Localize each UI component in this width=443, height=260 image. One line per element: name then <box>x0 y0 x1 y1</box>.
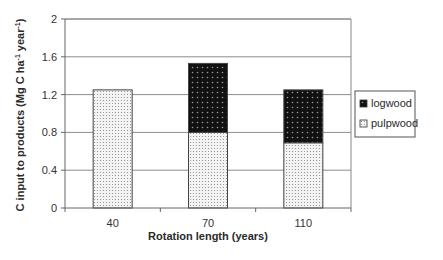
bar-logwood-70 <box>189 63 228 132</box>
y-tick-label: 0.4 <box>42 164 57 176</box>
y-tick-label: 1.6 <box>42 51 57 63</box>
bars <box>93 63 323 208</box>
bar-logwood-110 <box>284 90 323 143</box>
x-tick-label: 40 <box>107 217 119 229</box>
legend-swatch-pulpwood <box>360 120 367 127</box>
legend-label-pulpwood: pulpwood <box>371 117 418 129</box>
stacked-bar-chart: 00.40.81.21.62 4070110 Rotation length (… <box>0 0 443 260</box>
bar-pulpwood-70 <box>189 132 228 208</box>
y-axis-ticks: 00.40.81.21.62 <box>42 13 65 214</box>
bar-pulpwood-40 <box>93 90 132 208</box>
bar-pulpwood-110 <box>284 143 323 208</box>
y-axis-title: C input to products (Mg C ha-1 year-1) <box>14 18 26 211</box>
x-axis-ticks: 4070110 <box>65 208 351 229</box>
x-tick-label: 110 <box>295 217 313 229</box>
x-tick-label: 70 <box>202 217 214 229</box>
y-tick-label: 0.8 <box>42 126 57 138</box>
y-tick-label: 2 <box>51 13 57 25</box>
y-tick-label: 1.2 <box>42 89 57 101</box>
legend-label-logwood: logwood <box>371 97 412 109</box>
legend: logwood pulpwood <box>355 91 418 137</box>
x-axis-title: Rotation length (years) <box>148 230 268 242</box>
legend-swatch-logwood <box>360 100 367 107</box>
y-tick-label: 0 <box>51 202 57 214</box>
